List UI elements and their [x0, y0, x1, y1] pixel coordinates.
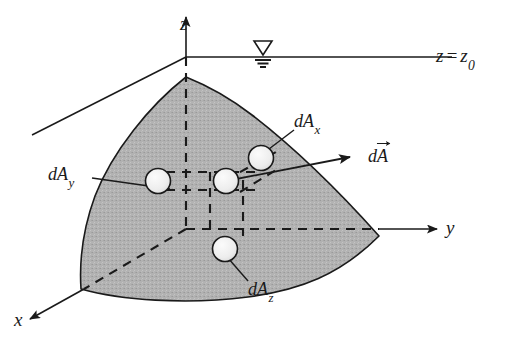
da-y-d: d [48, 164, 57, 184]
da-vector-A-wrap: A [377, 147, 388, 165]
da-z-circle [213, 237, 238, 262]
water-table-icon [254, 41, 272, 67]
da-x-label: dAx [294, 112, 320, 135]
da-x-circle [249, 146, 274, 171]
z-axis-label: z [180, 14, 187, 33]
x-axis-label: x [14, 310, 22, 329]
datum-label: z=z0 [436, 46, 474, 69]
da-center-circle [214, 169, 239, 194]
da-z-subscript: z [268, 290, 273, 305]
da-y-label: dAy [48, 165, 74, 188]
datum-equals-sign: = [443, 45, 460, 66]
y-axis-label: y [446, 218, 454, 237]
da-z-label: dAz [248, 280, 273, 303]
da-x-subscript: x [314, 122, 320, 137]
x-axis [30, 289, 84, 319]
da-vector-A: A [377, 146, 388, 166]
da-x-A: A [303, 111, 314, 131]
da-x-d: d [294, 111, 303, 131]
datum-z-value: z [460, 45, 467, 66]
da-vector-label: dA [368, 147, 388, 165]
da-y-circle [146, 169, 171, 194]
da-y-subscript: y [68, 175, 74, 190]
datum-z-subscript: 0 [468, 58, 475, 73]
da-z-A: A [257, 279, 268, 299]
da-z-d: d [248, 279, 257, 299]
da-y-A: A [57, 164, 68, 184]
figure-container: z y x z=z0 dAy dAx dAz dA [0, 0, 514, 339]
da-vector-d: d [368, 146, 377, 166]
